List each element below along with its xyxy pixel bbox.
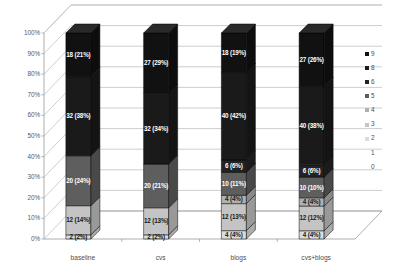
legend-label: 8 xyxy=(371,65,375,71)
y-axis-tick-label: 20% xyxy=(28,194,41,201)
bar-segment-front xyxy=(299,198,324,206)
bar-segment-front xyxy=(66,156,91,206)
legend-swatch-icon xyxy=(365,137,369,141)
bar-segment-front xyxy=(299,231,324,239)
bar-segment-front xyxy=(221,172,246,195)
legend-item-8[interactable]: 8 xyxy=(365,61,375,75)
y-axis-tick-label: 30% xyxy=(28,173,41,180)
bar-segment-side xyxy=(324,78,333,165)
bar-segment-front xyxy=(221,204,246,231)
bar-segment-side xyxy=(91,147,100,206)
x-axis-category-label: blogs xyxy=(200,254,278,261)
legend-label: 1 xyxy=(371,150,375,156)
bar-segment-front xyxy=(144,164,169,208)
bar-segment-side xyxy=(91,68,100,156)
legend-label: 9 xyxy=(371,51,375,57)
bar-segment-front xyxy=(221,33,246,73)
y-axis-tick-label: 40% xyxy=(28,153,41,160)
x-axis-category-label: baseline xyxy=(44,254,122,261)
legend-swatch-icon xyxy=(365,151,369,155)
bar-segment-front xyxy=(221,160,246,172)
bar-segment-front xyxy=(221,195,246,203)
bar-segment-front xyxy=(66,206,91,235)
bar-segment-front xyxy=(221,73,246,160)
legend-item-0[interactable]: 0 xyxy=(365,160,375,174)
legend-item-5[interactable]: 5 xyxy=(365,89,375,103)
bar-segment-front xyxy=(299,33,324,87)
y-axis-tick-label: 100% xyxy=(24,29,40,36)
y-axis-tick-label: 70% xyxy=(28,91,41,98)
bar-segment-front xyxy=(299,87,324,165)
legend-item-9[interactable]: 9 xyxy=(365,47,375,61)
stacked-bar-chart: 0%10%20%30%40%50%60%70%80%90%100%2 (2%)1… xyxy=(0,0,394,271)
legend-item-4[interactable]: 4 xyxy=(365,103,375,117)
y-axis-tick-label: 60% xyxy=(28,111,41,118)
legend-item-1[interactable]: 1 xyxy=(365,146,375,160)
legend-label: 4 xyxy=(371,107,375,113)
bar-segment-side xyxy=(246,64,255,160)
y-axis-tick-label: 90% xyxy=(28,50,41,57)
x-axis-category-label: cvs xyxy=(122,254,200,261)
x-axis-category-label: cvs+blogs xyxy=(277,254,355,261)
bar-segment-front xyxy=(299,165,324,177)
y-axis-tick-label: 0% xyxy=(31,235,40,242)
legend-swatch-icon xyxy=(365,108,369,112)
y-axis-tick-label: 80% xyxy=(28,70,41,77)
bar-segment-side xyxy=(169,24,178,93)
bar-segment-front xyxy=(144,93,169,164)
legend-item-3[interactable]: 3 xyxy=(365,117,375,131)
legend-label: 0 xyxy=(371,164,375,170)
bar-segment-side xyxy=(169,84,178,164)
y-axis-tick-label: 50% xyxy=(28,132,41,139)
legend-swatch-icon xyxy=(365,165,369,169)
bar-segment-front xyxy=(144,33,169,93)
chart-canvas xyxy=(0,0,394,271)
bar-segment-front xyxy=(221,231,246,239)
bar-segment-front xyxy=(144,208,169,235)
legend-swatch-icon xyxy=(365,80,369,84)
legend-swatch-icon xyxy=(365,66,369,70)
chart-legend: 986543210 xyxy=(365,47,375,174)
bar-segment-front xyxy=(66,77,91,156)
bar-segment-front xyxy=(144,235,169,239)
legend-label: 6 xyxy=(371,79,375,85)
legend-label: 5 xyxy=(371,93,375,99)
bar-segment-side xyxy=(324,24,333,87)
bar-segment-front xyxy=(299,177,324,198)
bar-segment-front xyxy=(66,235,91,239)
bar-segment-front xyxy=(66,33,91,77)
legend-swatch-icon xyxy=(365,52,369,56)
legend-label: 3 xyxy=(371,121,375,127)
legend-swatch-icon xyxy=(365,94,369,98)
y-axis-tick-label: 10% xyxy=(28,214,41,221)
legend-item-6[interactable]: 6 xyxy=(365,75,375,89)
bar-segment-front xyxy=(299,206,324,231)
legend-label: 2 xyxy=(371,135,375,141)
legend-swatch-icon xyxy=(365,123,369,127)
legend-item-2[interactable]: 2 xyxy=(365,132,375,146)
